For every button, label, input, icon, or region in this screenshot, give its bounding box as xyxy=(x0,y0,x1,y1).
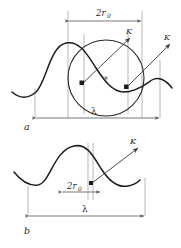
dimension-diameter-b: 2r 0 xyxy=(62,181,100,192)
dimension-wavelength-a-label: λ xyxy=(91,106,97,116)
dimension-diameter-a-label: 2r xyxy=(95,8,106,18)
circle-center-dot-a xyxy=(105,77,108,80)
point-marker-a-left xyxy=(80,81,85,86)
panel-letter-a: a xyxy=(24,121,30,132)
dimension-wavelength-a: λ xyxy=(36,106,159,118)
point-marker-b xyxy=(89,181,93,185)
vector-k-outer-a-label: K xyxy=(163,33,171,42)
wave-curve-a xyxy=(12,43,172,98)
dimension-diameter-b-label: 2r xyxy=(66,181,77,191)
wave-curve-b xyxy=(14,146,140,187)
dimension-wavelength-b: λ xyxy=(29,204,144,216)
vector-k-b-label: K xyxy=(129,137,137,146)
dimension-diameter-a-subscript: 0 xyxy=(107,12,111,19)
figure-canvas: 2r 0 K K λ a xyxy=(0,0,181,248)
point-marker-a-right xyxy=(124,85,129,90)
panel-letter-b: b xyxy=(24,225,30,236)
vector-k-inner-a-label: K xyxy=(125,27,133,36)
dimension-diameter-a: 2r 0 xyxy=(69,8,141,21)
dimension-wavelength-b-label: λ xyxy=(82,204,88,214)
scattering-geometry-figure: 2r 0 K K λ a xyxy=(0,0,181,248)
panel-b: K 2r 0 λ b xyxy=(14,137,145,236)
panel-a: 2r 0 K K λ a xyxy=(12,8,172,132)
dimension-diameter-b-subscript: 0 xyxy=(78,185,82,192)
